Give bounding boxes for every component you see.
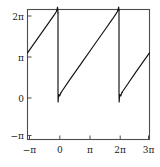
y-tick-label-0: 0 — [18, 94, 24, 104]
x-tick-label-neg-pi: −π — [23, 145, 37, 155]
plot-background — [28, 10, 150, 140]
x-tick-label-2pi: 2π — [114, 145, 126, 155]
x-axis-tick-labels: −π 0 π 2π 3π — [23, 145, 155, 155]
y-tick-label-pi: π — [18, 53, 24, 63]
y-tick-label-2pi: 2π — [12, 12, 24, 22]
y-axis-tick-labels: 2π π 0 −π — [11, 12, 25, 142]
y-tick-label-neg-pi: −π — [11, 131, 25, 141]
sawtooth-wave-chart: 2π π 0 −π −π 0 π 2π 3π — [0, 0, 160, 167]
x-tick-label-3pi: 3π — [143, 145, 155, 155]
x-tick-label-pi: π — [87, 145, 93, 155]
x-tick-label-0: 0 — [57, 145, 63, 155]
figure-container: 2π π 0 −π −π 0 π 2π 3π — [0, 0, 160, 167]
